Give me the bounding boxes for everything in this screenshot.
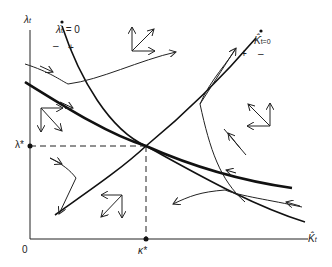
direction-arrows-right: [247, 103, 270, 126]
k-locus-dot: [259, 29, 262, 32]
x-axis-label: K̂t: [308, 233, 317, 244]
lambda-dot-zero-label: λ̇t = 0: [56, 24, 80, 35]
k-locus-plus: +: [241, 48, 247, 59]
lambda-locus-plus: +: [68, 42, 74, 53]
k-locus-minus: –: [258, 48, 264, 59]
lambda-locus-minus: –: [53, 40, 59, 51]
traj-ul-arrow: [40, 66, 53, 72]
k-dot-zero-label: K̂̇t=0: [254, 35, 271, 46]
y-axis-label: λt: [24, 14, 31, 25]
origin-label: 0: [22, 244, 28, 255]
lambda-star-dot: [28, 144, 33, 149]
traj-ur-up: [200, 48, 236, 104]
k-star-label: κ*: [138, 245, 147, 256]
traj-ll-arrow: [50, 158, 62, 164]
saddle-arrow-right: [226, 170, 236, 173]
k-star-dot: [144, 237, 149, 242]
traj-ur-arrow: [228, 133, 240, 148]
direction-arrows-bottom: [101, 195, 122, 218]
direction-arrows-top: [132, 27, 155, 51]
trajectory-lower-left: [50, 158, 76, 214]
trajectory-lower-right: [173, 190, 302, 207]
phase-diagram: [0, 0, 332, 267]
lambda-star-label: λ*: [15, 139, 24, 150]
trajectory-upper-left: [25, 52, 176, 84]
direction-arrows-left: [41, 108, 63, 132]
